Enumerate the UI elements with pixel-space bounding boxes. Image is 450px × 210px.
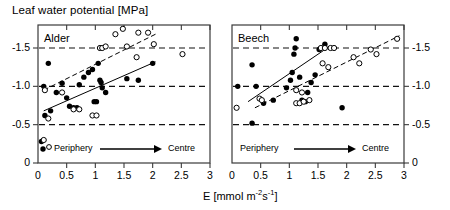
- data-point-filled: [308, 80, 313, 85]
- data-point-open: [301, 99, 306, 104]
- x-tick-label: 0: [229, 169, 235, 181]
- data-point-open: [322, 45, 327, 50]
- annotation-centre-label: Centre: [362, 143, 389, 153]
- panel-title-beech: Beech: [238, 32, 269, 44]
- x-tick-label: 1: [286, 169, 292, 181]
- data-point-filled: [312, 72, 317, 77]
- data-point-filled: [339, 105, 344, 110]
- y-tick-label: -1.5: [412, 41, 430, 53]
- data-point-filled: [290, 70, 295, 75]
- data-point-open: [374, 52, 379, 57]
- data-point-open: [368, 47, 373, 52]
- data-point-open: [326, 65, 331, 70]
- x-tick-label: 2.5: [368, 169, 383, 181]
- data-point-open: [331, 45, 336, 50]
- annotation-periphery-label: Periphery: [240, 143, 279, 153]
- data-point-filled: [292, 45, 297, 50]
- data-point-open: [259, 98, 264, 103]
- data-point-open: [395, 36, 400, 41]
- data-point-open: [234, 105, 239, 110]
- data-point-filled: [235, 84, 240, 89]
- data-point-open: [307, 98, 312, 103]
- y-tick-label: 0: [412, 156, 418, 168]
- data-point-filled: [284, 85, 289, 90]
- data-point-open: [351, 55, 356, 60]
- y-tick-label: -0.5: [412, 118, 430, 130]
- data-point-filled: [271, 97, 276, 102]
- gradient-arrow-head: [348, 145, 356, 153]
- data-point-filled: [291, 51, 296, 56]
- x-tick-label: 2: [344, 169, 350, 181]
- data-point-filled: [305, 90, 310, 95]
- data-point-filled: [249, 120, 254, 125]
- y-tick-label: -1.0: [412, 79, 430, 91]
- data-point-filled: [288, 78, 293, 83]
- data-point-open: [294, 88, 299, 93]
- data-point-filled: [294, 36, 299, 41]
- data-point-open: [320, 61, 325, 66]
- x-tick-label: 0.5: [253, 169, 268, 181]
- data-point-open: [357, 61, 362, 66]
- figure-container: Leaf water potential [MPa]E [mmol m-2s-1…: [0, 0, 450, 210]
- data-point-filled: [249, 62, 254, 67]
- data-point-filled: [297, 74, 302, 79]
- data-point-open: [299, 90, 304, 95]
- x-tick-label: 1.5: [311, 169, 326, 181]
- x-tick-label: 3: [401, 169, 407, 181]
- data-point-filled: [253, 84, 258, 89]
